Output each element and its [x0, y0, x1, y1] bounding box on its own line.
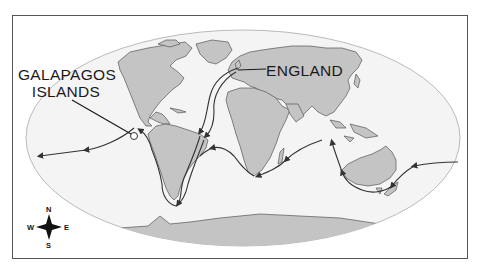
galapagos-label-line2: ISLANDS: [18, 83, 114, 100]
compass-rose: [36, 214, 62, 240]
galapagos-label: GALAPAGOS ISLANDS: [18, 66, 114, 100]
compass-north: N: [46, 205, 51, 214]
england-label: ENGLAND: [266, 62, 343, 79]
world-map: [0, 0, 481, 272]
compass-east: E: [64, 223, 69, 232]
compass-south: S: [46, 241, 51, 250]
galapagos-label-line1: GALAPAGOS: [18, 66, 114, 83]
compass-west: W: [27, 223, 34, 232]
galapagos-marker: [131, 133, 138, 140]
